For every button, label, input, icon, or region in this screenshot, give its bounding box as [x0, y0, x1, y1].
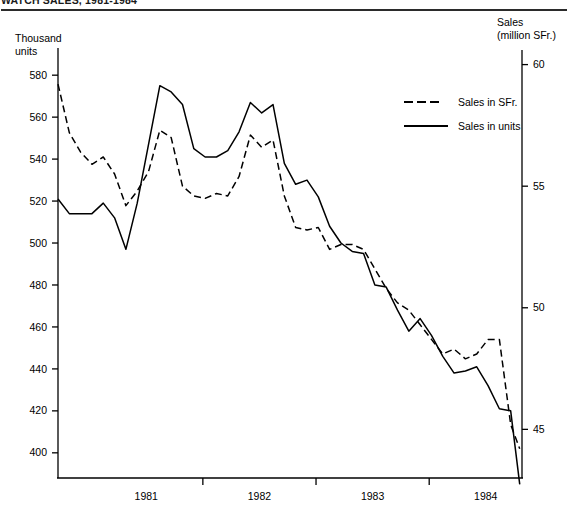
left-tick-label: 440	[29, 363, 47, 375]
right-axis-caption: Sales (million SFr.)	[497, 16, 556, 41]
legend-label-units: Sales in units	[458, 120, 520, 132]
left-tick-label: 560	[29, 111, 47, 123]
legend-label-sfr: Sales in SFr.	[458, 96, 518, 108]
chart-title-strip: WATCH SALES, 1981-1984	[0, 0, 587, 8]
page-title: WATCH SALES, 1981-1984	[0, 0, 587, 6]
left-tick-label: 460	[29, 321, 47, 333]
legend-item-units: Sales in units	[404, 114, 554, 138]
left-axis-caption-line2: units	[15, 45, 62, 58]
year-label: 1981	[135, 490, 159, 502]
plot-area: 4004204404604805005205405605804550556019…	[0, 0, 587, 515]
left-tick-label: 580	[29, 69, 47, 81]
series-layer	[58, 84, 520, 484]
series-line-sales-units	[58, 86, 520, 485]
left-tick-label: 520	[29, 195, 47, 207]
title-rule	[1, 9, 567, 11]
series-line-sales-sfr	[58, 84, 520, 449]
left-tick-label: 540	[29, 153, 47, 165]
chart-legend: Sales in SFr. Sales in units	[404, 90, 554, 138]
year-label: 1984	[474, 490, 498, 502]
right-axis-caption-line2: (million SFr.)	[497, 29, 556, 42]
right-tick-label: 45	[533, 423, 545, 435]
solid-line-swatch-icon	[404, 121, 448, 131]
left-axis-caption-line1: Thousand	[15, 32, 62, 45]
right-tick-label: 55	[533, 180, 545, 192]
left-tick-label: 480	[29, 279, 47, 291]
year-label: 1983	[361, 490, 385, 502]
dashed-line-swatch-icon	[404, 97, 448, 107]
year-label: 1982	[248, 490, 272, 502]
chart-figure: WATCH SALES, 1981-1984 Thousand units Sa…	[0, 0, 587, 515]
left-tick-label: 400	[29, 446, 47, 458]
right-tick-label: 60	[533, 58, 545, 70]
right-tick-label: 50	[533, 301, 545, 313]
left-axis-caption: Thousand units	[15, 32, 62, 57]
left-tick-label: 500	[29, 237, 47, 249]
right-axis-caption-line1: Sales	[497, 16, 556, 29]
left-tick-label: 420	[29, 404, 47, 416]
legend-item-sfr: Sales in SFr.	[404, 90, 554, 114]
